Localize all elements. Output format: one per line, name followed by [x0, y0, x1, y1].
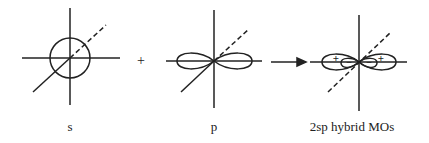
p-y-axis-front	[181, 61, 214, 92]
plus-operator: +	[137, 53, 145, 68]
arrow-head-icon	[297, 58, 306, 66]
hybrid-orbitals	[310, 15, 407, 111]
s-y-axis-back	[70, 25, 106, 58]
hybrid-left-plus-sign: +	[333, 52, 339, 64]
p-orbital	[166, 10, 262, 108]
hybrid-left-minus-sign: −	[346, 57, 352, 68]
reaction-arrow	[271, 58, 306, 66]
p-label: p	[211, 119, 218, 134]
s-label: s	[67, 119, 72, 134]
s-orbital	[22, 8, 120, 105]
orbital-diagram: + + + − − s p 2sp hybrid MOs	[0, 0, 429, 143]
s-y-axis-front	[33, 58, 70, 92]
hybrid-right-minus-sign: −	[366, 57, 372, 68]
hybrid-right-plus-sign: +	[378, 52, 384, 64]
p-y-axis-back	[214, 29, 249, 61]
hybrid-label: 2sp hybrid MOs	[310, 119, 395, 134]
